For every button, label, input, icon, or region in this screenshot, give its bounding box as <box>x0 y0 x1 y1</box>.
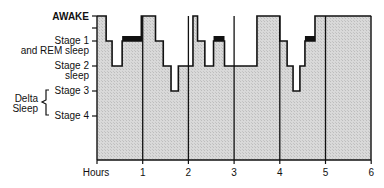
y-label-awake: AWAKE <box>52 11 89 22</box>
y-label-stage4: Stage 4 <box>55 110 90 121</box>
x-axis-label: Hours <box>83 167 110 178</box>
y-ticks <box>92 16 97 116</box>
x-tick-labels: 123456 <box>140 167 375 178</box>
x-tick-label: 3 <box>231 167 237 178</box>
rem-bar <box>122 36 141 41</box>
y-label-stage3: Stage 3 <box>55 85 90 96</box>
x-tick-label: 1 <box>140 167 146 178</box>
x-tick-label: 4 <box>277 167 283 178</box>
y-label-stage1-sub: and REM sleep <box>21 45 90 56</box>
rem-bar <box>214 36 225 41</box>
x-tick-label: 2 <box>186 167 192 178</box>
x-tick-label: 5 <box>323 167 329 178</box>
delta-bracket <box>42 90 49 115</box>
y-label-stage2-sub: sleep <box>65 70 89 81</box>
delta-label-sub: Sleep <box>12 103 38 114</box>
x-tick-label: 6 <box>368 167 374 178</box>
hypnogram-chart: AWAKE Stage 1 and REM sleep Stage 2 slee… <box>0 0 384 188</box>
rem-bar <box>305 36 315 41</box>
